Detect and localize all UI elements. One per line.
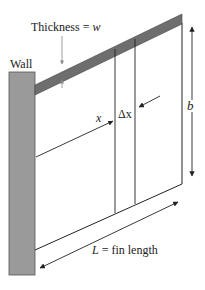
length-label: L = fin length bbox=[91, 243, 158, 257]
x-arrow bbox=[36, 121, 113, 157]
fin-bottom-edge bbox=[35, 184, 182, 250]
thickness-label: Thickness = w bbox=[31, 20, 100, 34]
delta-x-label: Δx bbox=[118, 107, 132, 121]
delta-x-arrow bbox=[139, 96, 160, 107]
length-dimension-arrow bbox=[40, 202, 178, 268]
x-label: x bbox=[95, 111, 102, 125]
wall-label: Wall bbox=[10, 57, 33, 71]
fin-diagram: Wall Thickness = w x Δx b L = fin length bbox=[0, 0, 205, 290]
wall bbox=[9, 72, 35, 275]
b-label: b bbox=[187, 98, 194, 113]
